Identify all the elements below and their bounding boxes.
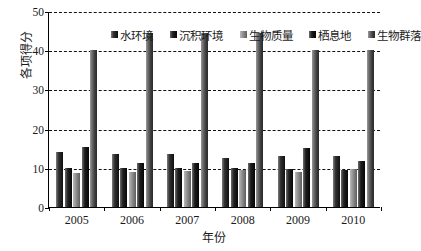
bar <box>192 163 199 207</box>
legend-item-3[interactable]: 栖息地 <box>309 27 351 43</box>
legend-item-0[interactable]: 水环境 <box>111 27 153 43</box>
x-tick-label: 2006 <box>120 213 144 228</box>
x-tick-label: 2005 <box>65 213 89 228</box>
bar <box>350 169 357 207</box>
y-tick-label: 0 <box>38 202 44 214</box>
bar <box>65 168 72 207</box>
x-tick-mark <box>326 207 327 211</box>
bar <box>73 173 80 207</box>
legend-label: 水环境 <box>120 27 153 43</box>
bar <box>333 156 340 207</box>
bar <box>303 148 310 207</box>
x-tick-label: 2007 <box>175 213 199 228</box>
bar <box>167 154 174 207</box>
y-tick-label: 10 <box>33 163 45 175</box>
bar <box>137 163 144 207</box>
y-tick-label: 40 <box>33 45 45 57</box>
bar <box>201 33 208 207</box>
x-tick-label: 2009 <box>286 213 310 228</box>
legend-swatch-icon <box>240 31 247 38</box>
bar <box>341 170 348 207</box>
x-tick-label: 2010 <box>341 213 365 228</box>
bar <box>56 152 63 207</box>
bar <box>184 171 191 207</box>
bar <box>82 147 89 207</box>
x-tick-mark <box>160 207 161 211</box>
bar <box>312 50 319 207</box>
legend-label: 生物质量 <box>249 27 293 43</box>
bar <box>175 168 182 207</box>
bar <box>146 33 153 207</box>
bar <box>112 154 119 207</box>
legend-swatch-icon <box>111 31 118 38</box>
bar <box>239 170 246 207</box>
bar <box>278 156 285 207</box>
legend-item-4[interactable]: 生物群落 <box>368 27 421 43</box>
legend-item-2[interactable]: 生物质量 <box>240 27 293 43</box>
x-tick-mark <box>381 207 382 211</box>
x-axis-title: 年份 <box>48 228 380 246</box>
legend-label: 栖息地 <box>318 27 351 43</box>
bar <box>120 168 127 207</box>
bar-group-2005 <box>56 12 97 207</box>
legend-label: 沉积环境 <box>179 27 223 43</box>
bar <box>231 168 238 207</box>
bar <box>367 50 374 207</box>
bar <box>256 33 263 207</box>
x-tick-label: 2008 <box>231 213 255 228</box>
bar <box>129 172 136 207</box>
legend: 水环境沉积环境生物质量栖息地生物群落 <box>111 27 421 42</box>
legend-swatch-icon <box>368 31 375 38</box>
x-tick-mark <box>270 207 271 211</box>
y-tick-label: 50 <box>33 6 45 18</box>
plot-area: 01020304050 200520062007200820092010 水环境… <box>48 12 380 208</box>
bar <box>358 161 365 207</box>
legend-label: 生物群落 <box>377 27 421 43</box>
x-tick-mark <box>49 207 50 211</box>
legend-item-1[interactable]: 沉积环境 <box>170 27 223 43</box>
bar <box>295 172 302 207</box>
x-tick-mark <box>215 207 216 211</box>
y-tick-label: 30 <box>33 84 45 96</box>
y-tick-label: 20 <box>33 123 45 135</box>
bar <box>248 163 255 207</box>
bar <box>286 169 293 207</box>
legend-swatch-icon <box>309 31 316 38</box>
legend-swatch-icon <box>170 31 177 38</box>
bar <box>222 158 229 207</box>
bar <box>90 50 97 207</box>
x-tick-mark <box>104 207 105 211</box>
